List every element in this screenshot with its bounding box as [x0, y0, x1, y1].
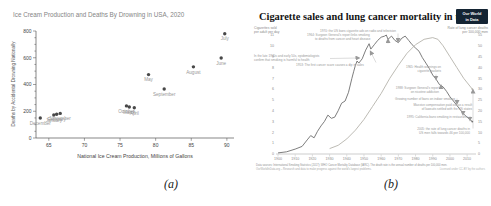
svg-text:200: 200: [23, 108, 32, 114]
svg-text:0: 0: [478, 152, 480, 156]
svg-text:2010: 2010: [463, 157, 471, 161]
svg-text:10: 10: [270, 44, 274, 48]
svg-text:1920: 1920: [308, 157, 316, 161]
svg-text:30: 30: [478, 87, 482, 91]
svg-text:August: August: [186, 70, 201, 75]
svg-text:1995: California bans smoking: 1995: California bans smoking in restaur…: [407, 115, 469, 119]
scatter-chart-svg: Ice Cream Production and Deaths By Drown…: [6, 6, 242, 168]
svg-text:Data sources: International Sm: Data sources: International Smoking Stat…: [256, 163, 448, 167]
svg-text:1980: 1980: [412, 157, 420, 161]
line-chart-svg: Cigarette sales and lung cancer mortalit…: [250, 2, 491, 176]
point-december: [39, 116, 42, 119]
svg-text:800: 800: [23, 28, 32, 34]
svg-text:5: 5: [478, 141, 480, 145]
svg-text:Our World: Our World: [463, 11, 483, 16]
svg-text:1930: 1930: [326, 157, 334, 161]
x-axis-label: National Ice Cream Production, Millions …: [77, 153, 193, 159]
svg-text:1950: 1950: [360, 157, 368, 161]
svg-text:1964: Surgeon General's report: 1964: Surgeon General's report links smo…: [307, 33, 370, 37]
svg-text:1965: Health warnings on: 1965: Health warnings on: [406, 65, 441, 69]
svg-text:65: 65: [46, 142, 52, 148]
svg-text:Ice Cream Production and Death: Ice Cream Production and Deaths By Drown…: [13, 11, 185, 19]
x-axis: 1900191019201930194019501960197019801990…: [274, 154, 476, 161]
annotation-surgeon-nicotine: 1988: Surgeon General's reporton nicotin…: [396, 86, 441, 94]
svg-text:2: 2: [272, 131, 274, 135]
annotation-surgeon-1964: 1964: Surgeon General's report links smo…: [307, 33, 388, 44]
svg-text:40: 40: [478, 66, 482, 70]
point-august: [192, 65, 195, 68]
svg-text:8: 8: [272, 66, 274, 70]
svg-text:5: 5: [272, 98, 274, 102]
point-september: [163, 87, 166, 90]
svg-text:11: 11: [270, 33, 274, 37]
svg-text:In the late 1940s and early 50: In the late 1940s and early 50s, epidemi…: [254, 54, 320, 58]
svg-text:May: May: [144, 77, 153, 82]
svg-text:75: 75: [117, 142, 123, 148]
svg-text:1953: The first cancer scare c: 1953: The first cancer scare causes a di…: [296, 63, 364, 67]
svg-text:400: 400: [23, 81, 32, 87]
panel-b-cigarette-chart: Cigarette sales and lung cancer mortalit…: [250, 2, 491, 176]
svg-text:85: 85: [188, 142, 194, 148]
svg-text:1940: 1940: [343, 157, 351, 161]
svg-text:cigarette packets: cigarette packets: [418, 69, 442, 73]
svg-text:Licensed under CC-BY by the au: Licensed under CC-BY by the authors: [440, 167, 486, 171]
chart-title: Cigarette sales and lung cancer mortalit…: [259, 11, 485, 22]
svg-text:1988: Surgeon General's report: 1988: Surgeon General's report: [396, 86, 439, 90]
svg-text:Cigarette sales and lung cance: Cigarette sales and lung cancer mortalit…: [259, 11, 485, 22]
svg-text:70: 70: [82, 142, 88, 148]
caption-a: (a): [156, 177, 186, 192]
svg-text:National Ice Cream Production,: National Ice Cream Production, Millions …: [77, 153, 193, 159]
left-axis: Cigarettes soldper adult per day01234567…: [254, 26, 280, 157]
svg-text:25: 25: [478, 98, 482, 102]
svg-text:80: 80: [153, 142, 159, 148]
svg-text:2000: 2000: [446, 157, 454, 161]
svg-text:Rate of lung cancer deaths: Rate of lung cancer deaths: [447, 26, 488, 30]
svg-text:to deaths from cancer and hear: to deaths from cancer and heart disease: [315, 37, 371, 41]
point-april: [133, 106, 136, 109]
svg-text:1: 1: [272, 141, 274, 145]
svg-text:per 100,000 men: per 100,000 men: [462, 30, 488, 34]
svg-text:Growing number of bans on indo: Growing number of bans on indoor smoking: [395, 97, 455, 101]
svg-text:7: 7: [272, 77, 274, 81]
svg-text:November: November: [50, 116, 72, 121]
svg-text:50: 50: [478, 44, 482, 48]
chart-title: Ice Cream Production and Deaths By Drown…: [13, 11, 185, 19]
point-march: [128, 105, 131, 108]
annotation-epidemiologists: In the late 1940s and early 50s, epidemi…: [254, 54, 358, 62]
svg-text:20: 20: [478, 109, 482, 113]
svg-text:on nicotine addiction: on nicotine addiction: [411, 90, 439, 94]
point-july: [223, 32, 226, 35]
svg-text:2005: the rate of lung cancer: 2005: the rate of lung cancer deaths in: [417, 127, 470, 131]
svg-text:1960: 1960: [377, 157, 385, 161]
svg-text:10: 10: [478, 131, 482, 135]
point-june: [219, 56, 222, 59]
svg-text:Massive compensation paid out: Massive compensation paid out as a resul…: [414, 103, 473, 107]
svg-text:US men falls towards 46 per 10: US men falls towards 46 per 100,000: [419, 131, 470, 135]
svg-text:Deaths by Accidental Drowning: Deaths by Accidental Drowning Nationally: [11, 41, 16, 127]
annotation-smoking-bans: Growing number of bans on indoor smoking: [395, 97, 457, 103]
two-panel-figure: Ice Cream Production and Deaths By Drown…: [0, 0, 491, 206]
svg-text:600: 600: [23, 55, 32, 61]
svg-text:0: 0: [29, 135, 32, 141]
svg-text:1910: 1910: [291, 157, 299, 161]
svg-text:90: 90: [224, 142, 230, 148]
right-axis: Rate of lung cancer deathsper 100,000 me…: [447, 26, 488, 157]
svg-text:35: 35: [478, 77, 482, 81]
svg-text:of lawsuits settled with the U: of lawsuits settled with the US states: [422, 107, 473, 111]
svg-text:confirm that smoking is harmfu: confirm that smoking is harmful to healt…: [254, 58, 310, 62]
svg-text:55: 55: [478, 33, 482, 37]
svg-text:1990: 1990: [429, 157, 437, 161]
svg-text:45: 45: [478, 55, 482, 59]
svg-text:per adult per day: per adult per day: [254, 30, 280, 34]
svg-text:0: 0: [272, 152, 274, 156]
panel-a-ice-cream-chart: Ice Cream Production and Deaths By Drown…: [6, 6, 242, 168]
svg-text:15: 15: [478, 120, 482, 124]
annotation-compensation: Massive compensation paid out as a resul…: [414, 103, 473, 114]
svg-text:June: June: [216, 61, 226, 66]
annotation-california: 1995: California bans smoking in restaur…: [407, 115, 470, 120]
data-points: DecemberJanuaryFebruaryNovemberOctoberMa…: [30, 32, 230, 126]
y-axis-label: Deaths by Accidental Drowning Nationally: [11, 41, 16, 127]
svg-text:3: 3: [272, 120, 274, 124]
svg-text:6: 6: [272, 87, 274, 91]
svg-text:in Data: in Data: [466, 17, 480, 22]
